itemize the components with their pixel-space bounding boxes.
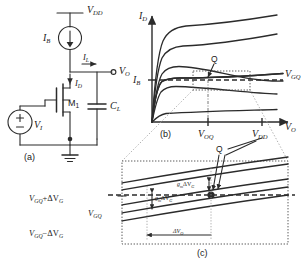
drain-current-label: ID [74, 78, 83, 89]
transistor-label: M1 [68, 98, 80, 109]
output-voltage-label: VO [119, 65, 130, 77]
bias-source-arrow-head [67, 42, 74, 48]
plot-b-y-axis-label: ID [138, 10, 147, 22]
zoom-cone [122, 90, 288, 161]
id-curve-2 [152, 87, 277, 123]
q-arrow-c-left [213, 155, 219, 190]
zoom-cone-right [250, 90, 288, 161]
q-label-b: Q [211, 54, 218, 64]
dvo-label: ΔVO [172, 228, 183, 236]
q-cone-tail [228, 138, 262, 149]
vgq-label-c: VGQ [88, 208, 102, 219]
panel-a-label: (a) [24, 152, 35, 162]
supply-label: VDD [87, 4, 103, 16]
panel-b-label: (b) [160, 129, 171, 139]
ground-junction-dot [68, 137, 73, 142]
panel-a-circuit: VDD IB VO IL ID M1 [8, 4, 130, 162]
inset-boundary [122, 161, 288, 244]
q-label-c: Q [216, 144, 223, 154]
bias-current-tick-label: IB [132, 74, 140, 86]
gm-dvg-upper-label: gmΔVG [177, 181, 195, 189]
panel-b-plot: ID VO IB VGQ Q VOQ VDD (b) [132, 10, 301, 140]
panel-c-label: (c) [197, 248, 208, 258]
figure-svg: VDD IB VO IL ID M1 [0, 0, 301, 272]
figure-root: VDD IB VO IL ID M1 [0, 0, 301, 272]
vgq-plus-dvg-label: VGQ+ΔVG [29, 193, 64, 204]
input-voltage-label: VI [34, 119, 43, 131]
voq-tick-label: VOQ [198, 128, 214, 140]
plot-b-x-axis-label: VO [285, 121, 296, 133]
vgq-curve-label: VGQ [285, 68, 301, 80]
q-arrow-c-second [218, 155, 225, 189]
id-curve-5 [152, 15, 277, 122]
vgq-minus-dvg-label: VGQ−ΔVG [29, 228, 64, 239]
id-curve-1 [152, 110, 277, 123]
load-current-label: IL [82, 52, 89, 63]
bias-current-label: IB [42, 32, 50, 44]
cap-label: CL [110, 100, 121, 112]
